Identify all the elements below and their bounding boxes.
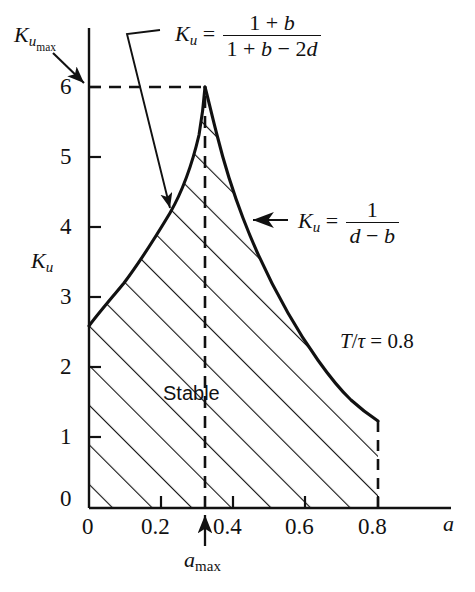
kumax-sub-text: max <box>36 41 56 53</box>
y-tick-label-0: 0 <box>60 487 72 510</box>
y-axis-label: Ku <box>31 250 53 275</box>
y-axis-label-base: K <box>31 248 46 273</box>
stability-plot-figure: 6 5 4 3 2 1 0 0 0.2 0.4 0.6 0.8 a Ku Kum… <box>0 0 475 592</box>
amax-sub-text: max <box>195 558 221 574</box>
param-equals: = <box>370 329 382 353</box>
stable-region-hatch <box>89 87 378 508</box>
left-equation-equals: = <box>203 21 215 46</box>
right-eq-num: 1 <box>367 197 378 222</box>
param-T: T <box>340 329 352 353</box>
y-tick-label-4: 4 <box>60 215 72 238</box>
x-axis-label: a <box>443 513 454 535</box>
left-equation-lhs: K <box>175 21 190 46</box>
left-eq-den-op2: − <box>278 36 290 61</box>
left-equation-lhs-sub: u <box>190 32 197 48</box>
left-equation-numerator: 1 + b <box>223 12 322 36</box>
x-tick-label-0.4: 0.4 <box>213 515 242 538</box>
stable-region-label: Stable <box>163 383 220 403</box>
left-equation-leader-line <box>127 30 170 208</box>
kumax-base: K <box>14 22 29 47</box>
left-eq-num-1: 1 <box>249 10 260 35</box>
x-tick-label-0.8: 0.8 <box>358 515 387 538</box>
x-tick-label-0.6: 0.6 <box>285 515 314 538</box>
y-tick-label-2: 2 <box>60 355 72 378</box>
x-tick-label-0.2: 0.2 <box>141 515 170 538</box>
right-equation-fraction: 1 d − b <box>346 199 399 247</box>
right-eq-den-1: d <box>350 223 361 248</box>
left-eq-den-1: 1 <box>227 36 238 61</box>
right-equation-numerator: 1 <box>346 199 399 223</box>
left-eq-num-2: b <box>284 10 295 35</box>
left-eq-den-3: 2 <box>295 36 306 61</box>
amax-label: amax <box>184 549 221 574</box>
y-axis-label-sub: u <box>46 259 53 275</box>
right-eq-den-op: − <box>366 223 378 248</box>
y-tick-label-5: 5 <box>60 145 72 168</box>
parameter-annotation: T/τ = 0.8 <box>340 331 414 352</box>
left-eq-den-op1: + <box>243 36 255 61</box>
right-equation-denominator: d − b <box>346 223 399 247</box>
y-tick-label-1: 1 <box>60 425 72 448</box>
amax-base: a <box>184 547 195 572</box>
x-axis-label-text: a <box>443 511 454 536</box>
right-equation-lhs: K <box>298 208 313 233</box>
left-eq-den-2: b <box>261 36 272 61</box>
x-tick-label-0: 0 <box>82 515 94 538</box>
right-eq-den-2: b <box>384 223 395 248</box>
left-eq-num-op: + <box>266 10 278 35</box>
param-tau: τ <box>358 329 366 353</box>
param-value: 0.8 <box>387 329 413 353</box>
left-equation-fraction: 1 + b 1 + b − 2d <box>223 12 322 60</box>
left-equation-denominator: 1 + b − 2d <box>223 36 322 60</box>
kumax-label: Kumax <box>14 24 56 53</box>
y-tick-label-3: 3 <box>60 285 72 308</box>
y-tick-label-6: 6 <box>60 75 72 98</box>
left-equation: Ku = 1 + b 1 + b − 2d <box>175 12 323 60</box>
right-equation-equals: = <box>326 208 338 233</box>
right-equation-lhs-sub: u <box>313 219 320 235</box>
left-eq-den-4: d <box>306 36 317 61</box>
right-equation: Ku = 1 d − b <box>298 199 401 247</box>
